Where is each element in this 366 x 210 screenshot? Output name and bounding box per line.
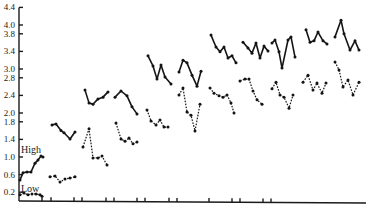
data-point [199, 103, 202, 106]
data-point [279, 93, 282, 96]
data-point [321, 92, 324, 95]
data-point [218, 94, 221, 97]
data-point [128, 137, 131, 140]
y-axis: 4.44.03.83.43.02.82.42.01.81.41.00.60.2 [4, 2, 23, 201]
y-tick-label: 4.4 [4, 2, 16, 12]
data-point [287, 38, 290, 41]
data-point [59, 181, 62, 184]
data-point [64, 178, 67, 181]
high-segment-line [335, 20, 359, 50]
data-point [261, 103, 264, 106]
data-point [231, 54, 234, 57]
data-point [97, 156, 100, 159]
data-point [186, 111, 189, 114]
data-point [26, 170, 29, 173]
data-point [84, 89, 87, 92]
data-point [325, 82, 328, 85]
data-point [126, 94, 129, 97]
data-point [358, 49, 361, 52]
high-segment-line [211, 35, 236, 63]
data-point [210, 34, 213, 37]
low-segment-line [116, 123, 137, 144]
data-point [219, 50, 222, 53]
data-point [322, 39, 325, 42]
data-point [156, 78, 159, 81]
y-tick-label: 2.4 [4, 90, 16, 100]
low-segment-line [147, 110, 168, 127]
data-point [267, 49, 270, 52]
low-segment-line [83, 129, 107, 165]
data-point [115, 122, 118, 125]
data-point [150, 119, 153, 122]
data-point [247, 46, 250, 49]
data-point [42, 156, 45, 159]
data-point [74, 175, 77, 178]
data-point [34, 162, 37, 165]
data-point [54, 174, 57, 177]
data-point [186, 61, 189, 64]
data-point [326, 42, 329, 45]
data-point [338, 68, 341, 71]
data-point [120, 137, 123, 140]
data-point [239, 79, 242, 82]
data-point [136, 112, 139, 115]
low-segment-line [303, 75, 326, 93]
high-series [19, 19, 361, 182]
data-point [196, 85, 199, 88]
data-point [164, 75, 167, 78]
data-point [307, 74, 310, 77]
data-point [271, 42, 274, 45]
data-point [132, 142, 135, 145]
data-point [290, 35, 293, 38]
data-point [347, 79, 350, 82]
data-point [167, 126, 170, 129]
data-point [288, 107, 291, 110]
data-point [131, 105, 134, 108]
data-point [69, 137, 72, 140]
data-point [251, 52, 254, 55]
data-point [227, 57, 230, 60]
y-tick-label: 2.8 [4, 73, 16, 83]
data-point [334, 60, 337, 63]
y-tick-label: 3.8 [4, 29, 16, 39]
data-point [159, 119, 162, 122]
data-point [124, 140, 127, 143]
data-point [248, 78, 251, 81]
data-point [170, 82, 173, 85]
y-tick-label: 0.2 [4, 187, 15, 197]
data-point [146, 108, 149, 111]
data-point [37, 159, 40, 162]
data-point [49, 175, 52, 178]
data-point [160, 64, 163, 67]
data-point [263, 45, 266, 48]
data-point [342, 86, 345, 89]
data-point [147, 54, 150, 57]
data-point [107, 90, 110, 93]
data-point [22, 171, 25, 174]
y-tick-label: 0.6 [4, 170, 16, 180]
data-point [194, 130, 197, 133]
data-point [209, 86, 212, 89]
low-segment-line [210, 88, 234, 113]
data-point [55, 123, 58, 126]
data-point [230, 101, 233, 104]
data-point [235, 61, 238, 64]
high-segment-line [243, 42, 268, 58]
y-tick-label: 1.8 [4, 117, 16, 127]
data-point [182, 59, 185, 62]
low-series [19, 60, 361, 197]
high-segment-line [272, 37, 295, 68]
data-point [200, 70, 203, 73]
data-point [340, 19, 343, 22]
low-segment-line [240, 79, 262, 104]
data-point [275, 81, 278, 84]
data-point [60, 129, 63, 132]
data-point [255, 42, 258, 45]
data-point [252, 90, 255, 93]
data-point [316, 82, 319, 85]
low-segment-line [179, 88, 200, 131]
data-point [233, 112, 236, 115]
data-point [222, 96, 225, 99]
data-point [215, 46, 218, 49]
data-point [283, 96, 286, 99]
